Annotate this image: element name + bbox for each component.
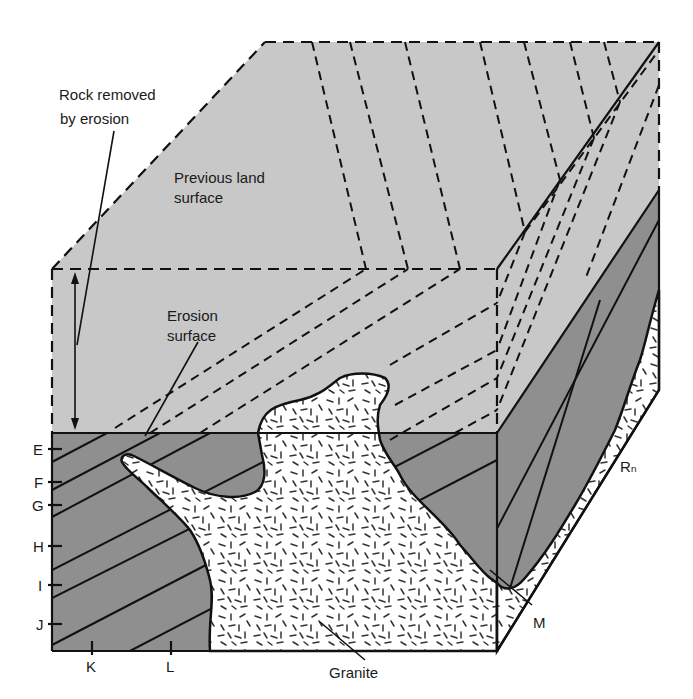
tick-label-g: G: [32, 497, 44, 514]
erosion-surface-label-line1: Erosion: [167, 307, 218, 324]
previous-land-surface-label-line2: surface: [174, 189, 223, 206]
block-diagram: Rock removed by erosion Previous land su…: [0, 0, 693, 699]
previous-land-surface-label-line1: Previous land: [174, 169, 265, 186]
tick-label-h: H: [33, 538, 44, 555]
erosion-surface-label-line2: surface: [167, 327, 216, 344]
tick-label-f: F: [34, 474, 43, 491]
tick-label-l: L: [166, 658, 174, 675]
rn-label: Rₙ: [620, 458, 637, 475]
rock-removed-label-line2: by erosion: [60, 110, 129, 127]
granite-label: Granite: [329, 664, 378, 681]
tick-label-i: I: [38, 577, 42, 594]
m-label: M: [533, 614, 546, 631]
tick-label-k: K: [86, 658, 96, 675]
rock-removed-label-line1: Rock removed: [59, 86, 156, 103]
tick-label-e: E: [33, 441, 43, 458]
tick-label-j: J: [36, 616, 44, 633]
